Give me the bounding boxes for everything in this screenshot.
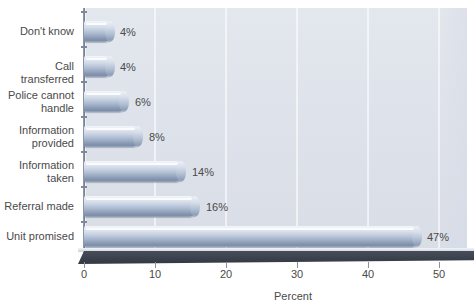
bar-end-cap: [119, 91, 129, 112]
x-tick-label-50: 50: [433, 268, 445, 280]
bar-police-cannot-handle[interactable]: [84, 91, 128, 112]
category-tick: [81, 186, 87, 188]
gridline-50: [438, 8, 440, 252]
x-tick-label-40: 40: [362, 268, 374, 280]
bar-referral-made[interactable]: [84, 196, 199, 217]
gridline-20: [225, 8, 227, 252]
bar-dont-know[interactable]: [84, 21, 114, 42]
category-label-police-cannot-handle: Police cannot handle: [0, 89, 74, 114]
bar-highlight: [86, 228, 415, 230]
bar-end-cap: [190, 196, 200, 217]
bar-end-cap: [105, 21, 115, 42]
category-label-information-taken: Information taken: [0, 159, 74, 184]
x-axis-title: Percent: [0, 290, 476, 302]
bar-information-provided[interactable]: [84, 126, 142, 147]
bar-highlight: [86, 58, 108, 60]
value-label-dont-know: 4%: [120, 26, 136, 38]
bar-call-transferred[interactable]: [84, 56, 114, 77]
gridline-40: [367, 8, 369, 252]
gridline-30: [296, 8, 298, 252]
category-tick: [81, 116, 87, 118]
bar-highlight: [86, 23, 108, 25]
category-tick: [81, 81, 87, 83]
bar-end-cap: [412, 226, 422, 247]
value-label-call-transferred: 4%: [120, 61, 136, 73]
x-tick-label-30: 30: [291, 268, 303, 280]
value-label-police-cannot-handle: 6%: [135, 96, 151, 108]
value-label-information-provided: 8%: [149, 131, 165, 143]
category-label-referral-made: Referral made: [0, 200, 74, 213]
bar-information-taken[interactable]: [84, 161, 185, 182]
category-label-call-transferred: Call transferred: [0, 60, 74, 85]
value-label-unit-promised: 47%: [427, 231, 449, 243]
bar-chart: Don't know Call transferred Police canno…: [0, 0, 476, 307]
bar-highlight: [86, 198, 193, 200]
x-tick-label-20: 20: [220, 268, 232, 280]
category-tick: [81, 11, 87, 13]
x-tick-label-0: 0: [81, 268, 87, 280]
value-label-information-taken: 14%: [192, 166, 214, 178]
base-plate-front: [78, 251, 474, 264]
x-axis-title-text: Percent: [274, 290, 312, 302]
category-label-dont-know: Don't know: [0, 25, 74, 38]
axis-base-plate: [78, 248, 474, 265]
category-tick: [81, 221, 87, 223]
bar-end-cap: [105, 56, 115, 77]
value-label-referral-made: 16%: [206, 201, 228, 213]
bar-highlight: [86, 163, 179, 165]
bar-highlight: [86, 128, 136, 130]
bar-unit-promised[interactable]: [84, 226, 421, 247]
bar-end-cap: [133, 126, 143, 147]
bar-end-cap: [176, 161, 186, 182]
category-tick: [81, 151, 87, 153]
x-tick-label-10: 10: [149, 268, 161, 280]
bar-highlight: [86, 93, 122, 95]
category-label-unit-promised: Unit promised: [0, 230, 74, 243]
category-tick: [81, 46, 87, 48]
category-label-information-provided: Information provided: [0, 124, 74, 149]
